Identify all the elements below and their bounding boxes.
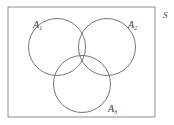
universe-label: S: [163, 10, 168, 20]
venn-diagram-figure: A1 A2 A3 S: [0, 0, 174, 125]
venn-diagram-canvas: A1 A2 A3 S: [0, 0, 174, 125]
set-circle-a2: [79, 19, 136, 76]
set-label-a2-subscript: 2: [134, 24, 138, 31]
set-circle-a3: [54, 56, 111, 113]
set-label-a1-subscript: 1: [39, 24, 42, 31]
set-label-a3: A3: [107, 103, 118, 115]
set-label-a1: A1: [32, 19, 42, 31]
set-label-a3-subscript: 3: [113, 108, 118, 115]
set-label-a2: A2: [127, 19, 138, 31]
